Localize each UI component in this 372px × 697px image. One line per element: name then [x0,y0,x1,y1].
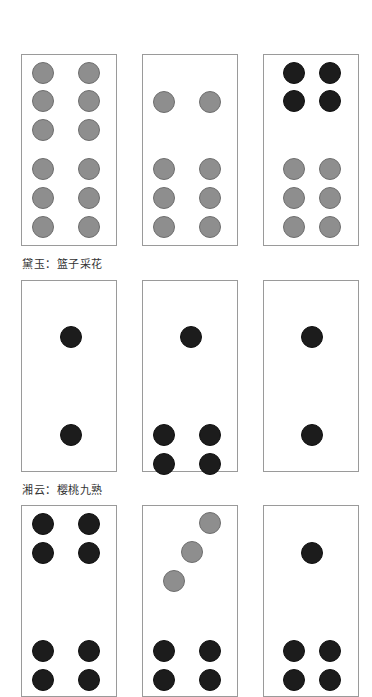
dark-pip-icon [153,640,175,662]
dark-pip-icon [283,640,305,662]
gray-pip-icon [153,187,175,209]
gray-pip-icon [32,158,54,180]
domino-card-r1-c1 [21,54,117,246]
gray-pip-icon [199,158,221,180]
gray-pip-icon [153,91,175,113]
dark-pip-icon [60,326,82,348]
gray-pip-icon [181,541,203,563]
dark-pip-icon [32,513,54,535]
row-caption: 湘云：樱桃九熟 [22,481,103,497]
domino-card-r2-c2 [142,280,238,472]
dark-pip-icon [301,424,323,446]
gray-pip-icon [319,187,341,209]
gray-pip-icon [199,216,221,238]
gray-pip-icon [153,158,175,180]
dark-pip-icon [199,424,221,446]
gray-pip-icon [78,62,100,84]
dark-pip-icon [153,669,175,691]
domino-card-r2-c1 [21,280,117,472]
dark-pip-icon [78,640,100,662]
dark-pip-icon [283,62,305,84]
dark-pip-icon [199,640,221,662]
gray-pip-icon [78,187,100,209]
dark-pip-icon [301,542,323,564]
domino-card-r3-c2 [142,505,238,697]
domino-card-r3-c3 [263,505,359,697]
dark-pip-icon [60,424,82,446]
dark-pip-icon [32,669,54,691]
dark-pip-icon [301,326,323,348]
domino-card-r1-c2 [142,54,238,246]
dark-pip-icon [32,640,54,662]
dark-pip-icon [199,669,221,691]
dark-pip-icon [319,640,341,662]
dark-pip-icon [319,669,341,691]
gray-pip-icon [78,216,100,238]
gray-pip-icon [283,187,305,209]
dark-pip-icon [180,326,202,348]
gray-pip-icon [32,62,54,84]
dark-pip-icon [319,62,341,84]
dark-pip-icon [319,90,341,112]
gray-pip-icon [199,91,221,113]
gray-pip-icon [199,512,221,534]
gray-pip-icon [32,187,54,209]
gray-pip-icon [78,119,100,141]
dark-pip-icon [32,542,54,564]
gray-pip-icon [153,216,175,238]
gray-pip-icon [32,216,54,238]
dark-pip-icon [78,542,100,564]
dark-pip-icon [199,453,221,475]
dark-pip-icon [283,90,305,112]
gray-pip-icon [32,90,54,112]
row-caption: 黛玉：篮子采花 [22,255,103,271]
gray-pip-icon [283,216,305,238]
dark-pip-icon [153,424,175,446]
gray-pip-icon [283,158,305,180]
gray-pip-icon [32,119,54,141]
dark-pip-icon [153,453,175,475]
domino-card-r1-c3 [263,54,359,246]
gray-pip-icon [163,570,185,592]
dark-pip-icon [78,669,100,691]
dark-pip-icon [283,669,305,691]
dark-pip-icon [78,513,100,535]
gray-pip-icon [319,158,341,180]
gray-pip-icon [78,90,100,112]
gray-pip-icon [78,158,100,180]
domino-card-r2-c3 [263,280,359,472]
gray-pip-icon [199,187,221,209]
domino-card-r3-c1 [21,505,117,697]
gray-pip-icon [319,216,341,238]
